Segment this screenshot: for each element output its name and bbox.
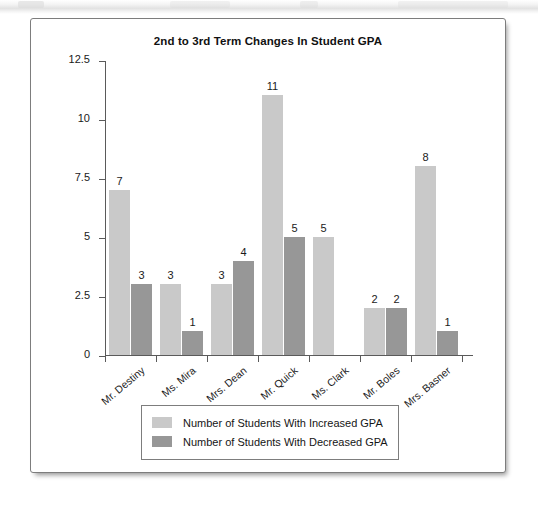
- chart-legend: Number of Students With Increased GPANum…: [141, 405, 399, 460]
- y-axis-tick: 5: [99, 238, 105, 239]
- bar[interactable]: 7: [109, 190, 130, 355]
- bar-value-label: 7: [116, 175, 122, 187]
- bar-value-label: 3: [218, 269, 224, 281]
- x-axis-category-label: Mrs. Basner: [402, 364, 453, 410]
- x-axis-tick: [309, 356, 310, 362]
- bar[interactable]: 1: [437, 331, 458, 355]
- chart-figure-card: 2nd to 3rd Term Changes In Student GPA 0…: [30, 18, 506, 473]
- bar-value-label: 5: [320, 222, 326, 234]
- x-axis-tick: [258, 356, 259, 362]
- x-axis-tick: [360, 356, 361, 362]
- chart-title: 2nd to 3rd Term Changes In Student GPA: [31, 35, 505, 47]
- bar[interactable]: 8: [415, 166, 436, 355]
- x-axis-category-label: Ms. Clark: [309, 364, 351, 402]
- x-axis-category-label: Mrs. Dean: [204, 364, 249, 404]
- bar[interactable]: 4: [233, 261, 254, 355]
- bar-value-label: 5: [291, 222, 297, 234]
- bar[interactable]: 1: [182, 331, 203, 355]
- x-axis-line: [105, 355, 473, 356]
- y-axis-tick-label: 12.5: [69, 53, 90, 65]
- x-axis-category-label: Mr. Quick: [258, 364, 300, 402]
- bar[interactable]: 5: [313, 237, 334, 355]
- bar[interactable]: 3: [160, 284, 181, 355]
- x-axis-category-label: Ms. Mira: [159, 364, 198, 399]
- x-axis-category-label: Mr. Boles: [360, 364, 401, 401]
- y-axis-tick-label: 7.5: [75, 171, 90, 183]
- x-axis-tick: [462, 356, 463, 362]
- y-axis-tick-label: 5: [84, 230, 90, 242]
- bar-value-label: 4: [240, 246, 246, 258]
- scan-artifact-strip: [0, 0, 538, 14]
- bar[interactable]: 5: [284, 237, 305, 355]
- x-axis-tick: [105, 356, 106, 362]
- bar-value-label: 2: [393, 293, 399, 305]
- y-axis-tick: 2.5: [99, 297, 105, 298]
- bar[interactable]: 3: [131, 284, 152, 355]
- bar-value-label: 3: [138, 269, 144, 281]
- y-axis-tick: 10: [99, 120, 105, 121]
- legend-label: Number of Students With Increased GPA: [183, 417, 383, 429]
- bar[interactable]: 2: [386, 308, 407, 355]
- x-axis-tick: [156, 356, 157, 362]
- bar-value-label: 1: [444, 316, 450, 328]
- bar[interactable]: 11: [262, 95, 283, 355]
- legend-item[interactable]: Number of Students With Increased GPA: [152, 413, 388, 432]
- bar-value-label: 3: [167, 269, 173, 281]
- bar-value-label: 11: [267, 80, 278, 92]
- bar-value-label: 1: [189, 316, 195, 328]
- y-axis-tick: 12.5: [99, 61, 105, 62]
- bar[interactable]: 3: [211, 284, 232, 355]
- x-axis-tick: [207, 356, 208, 362]
- y-axis-tick-label: 2.5: [75, 289, 90, 301]
- bar[interactable]: 2: [364, 308, 385, 355]
- y-axis-tick-label: 10: [78, 112, 90, 124]
- x-axis-tick: [411, 356, 412, 362]
- y-axis-tick-label: 0: [84, 348, 90, 360]
- y-axis-tick: 7.5: [99, 179, 105, 180]
- legend-swatch-decreased: [152, 436, 172, 447]
- x-axis-category-label: Mr. Destiny: [99, 364, 147, 407]
- bar-value-label: 8: [422, 151, 428, 163]
- bar-value-label: 2: [371, 293, 377, 305]
- plot-area: 02.557.51012.5 73313411552281 Mr. Destin…: [105, 61, 473, 356]
- y-axis-line: [105, 61, 106, 356]
- legend-label: Number of Students With Decreased GPA: [183, 436, 388, 448]
- legend-item[interactable]: Number of Students With Decreased GPA: [152, 432, 388, 451]
- legend-swatch-increased: [152, 417, 172, 428]
